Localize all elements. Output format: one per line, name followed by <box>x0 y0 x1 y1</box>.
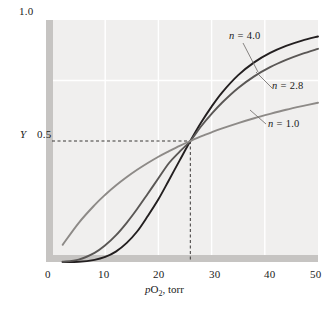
y-axis-top-label: 1.0 <box>19 5 33 17</box>
x-axis-title-suffix: , torr <box>163 283 184 295</box>
x-axis-title: pO2, torr <box>0 283 329 298</box>
y-axis-mid-label: 0.5 <box>37 128 51 140</box>
curve-label-n28-value: = 2.8 <box>278 80 304 91</box>
figure-container: 1.0 Y 0.5 0 10 20 30 40 50 pO2, torr n =… <box>0 0 329 311</box>
x-tick-label-50: 50 <box>310 268 321 280</box>
curve-label-n10-value: = 1.0 <box>274 118 300 129</box>
y-axis-bar <box>46 20 53 262</box>
y-axis-symbol-label: Y <box>20 128 26 140</box>
x-tick-label-10: 10 <box>98 268 109 280</box>
curve-label-n4: n = 4.0 <box>229 30 261 41</box>
plot-canvas <box>0 0 329 311</box>
curve-label-n28: n = 2.8 <box>272 80 304 91</box>
x-tick-label-40: 40 <box>264 268 275 280</box>
x-axis-title-main: O <box>151 283 159 295</box>
curve-label-n10: n = 1.0 <box>268 118 300 129</box>
x-tick-label-0: 0 <box>45 268 51 280</box>
x-tick-label-30: 30 <box>209 268 220 280</box>
x-tick-label-20: 20 <box>153 268 164 280</box>
curve-label-n4-value: = 4.0 <box>235 30 261 41</box>
